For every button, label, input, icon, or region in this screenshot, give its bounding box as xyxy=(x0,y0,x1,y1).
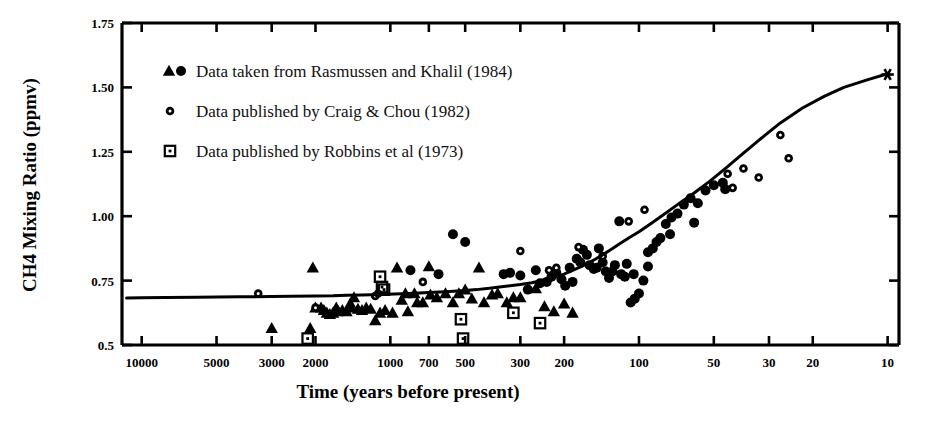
marker-open-circle xyxy=(754,173,763,182)
marker-filled-circle xyxy=(638,276,648,286)
marker-filled-circle xyxy=(505,268,515,278)
marker-open-circle xyxy=(728,184,737,193)
marker-open-circle xyxy=(776,131,785,140)
x-axis-title: Time (years before present) xyxy=(296,381,519,403)
marker-filled-circle xyxy=(460,237,470,247)
x-tick-label: 20 xyxy=(806,355,819,370)
marker-open-circle xyxy=(166,107,175,116)
x-tick-label: 10 xyxy=(881,355,894,370)
y-tick-label: 0.75 xyxy=(91,274,114,289)
marker-filled-circle xyxy=(622,259,632,269)
y-tick-label: 1.50 xyxy=(91,80,114,95)
x-tick-label: 300 xyxy=(511,355,531,370)
x-tick-label: 100 xyxy=(629,355,649,370)
marker-filled-circle xyxy=(665,229,675,239)
legend-label: Data published by Robbins et al (1973) xyxy=(196,142,463,161)
y-tick-label: 1.25 xyxy=(91,145,114,160)
marker-filled-circle xyxy=(643,261,653,271)
marker-open-circle xyxy=(311,303,320,312)
legend-label: Data published by Craig & Chou (1982) xyxy=(196,102,470,121)
marker-open-circle xyxy=(419,278,428,287)
marker-filled-circle xyxy=(582,250,592,260)
marker-filled-circle xyxy=(176,66,186,76)
marker-open-circle xyxy=(640,205,649,214)
x-tick-label: 50 xyxy=(707,355,720,370)
marker-open-circle xyxy=(516,247,525,256)
x-tick-label: 5000 xyxy=(204,355,230,370)
legend-item: Data published by Robbins et al (1973) xyxy=(165,142,463,161)
marker-filled-circle xyxy=(523,285,533,295)
legend-item: Data published by Craig & Chou (1982) xyxy=(166,102,470,121)
x-tick-label: 700 xyxy=(419,355,439,370)
chart-figure: 1000050003000200010007005003002001005030… xyxy=(0,0,945,425)
y-tick-label: 1.75 xyxy=(91,16,114,31)
chart-legend: Data taken from Rasmussen and Khalil (19… xyxy=(163,62,513,161)
marker-open-circle xyxy=(784,154,793,163)
legend-item: Data taken from Rasmussen and Khalil (19… xyxy=(163,62,513,81)
ch4-mixing-ratio-scatter-chart: 1000050003000200010007005003002001005030… xyxy=(0,0,945,425)
marker-filled-circle xyxy=(634,288,644,298)
marker-filled-circle xyxy=(448,229,458,239)
x-tick-label: 2000 xyxy=(302,355,328,370)
marker-open-circle xyxy=(574,243,583,252)
y-axis-title: CH4 Mixing Ratio (ppmv) xyxy=(19,78,41,292)
marker-filled-circle xyxy=(672,209,682,219)
marker-filled-circle xyxy=(620,272,630,282)
marker-open-circle xyxy=(739,164,748,173)
marker-filled-circle xyxy=(655,233,665,243)
marker-open-circle xyxy=(624,217,633,226)
x-tick-label: 10000 xyxy=(125,355,158,370)
marker-filled-circle xyxy=(515,270,525,280)
x-tick-label: 30 xyxy=(762,355,775,370)
legend-label: Data taken from Rasmussen and Khalil (19… xyxy=(196,62,512,81)
marker-filled-circle xyxy=(693,198,703,208)
marker-filled-circle xyxy=(531,265,541,275)
marker-filled-circle xyxy=(614,216,624,226)
legend-marker-open-circle xyxy=(166,107,175,116)
marker-filled-circle xyxy=(629,269,639,279)
marker-open-circle xyxy=(552,263,561,272)
x-tick-label: 3000 xyxy=(259,355,285,370)
y-tick-label: 1.00 xyxy=(91,209,114,224)
marker-filled-circle xyxy=(610,260,620,270)
marker-filled-circle xyxy=(434,269,444,279)
x-tick-label: 500 xyxy=(455,355,475,370)
marker-filled-circle xyxy=(689,218,699,228)
x-tick-label: 200 xyxy=(554,355,574,370)
marker-filled-circle xyxy=(405,265,415,275)
x-tick-label: 1000 xyxy=(377,355,403,370)
y-tick-label: 0.5 xyxy=(98,338,115,353)
marker-filled-circle xyxy=(568,277,578,287)
